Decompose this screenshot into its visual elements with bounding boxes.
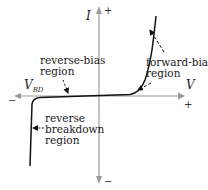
y-axis-negative-sign: − — [104, 176, 112, 187]
x-axis-label: V — [186, 80, 195, 91]
x-axis-negative-sign: − — [8, 95, 16, 106]
reverse-breakdown-label-line3: region — [45, 135, 79, 146]
forward-bias-arrow-lower — [138, 83, 151, 90]
y-axis-positive-sign: + — [104, 5, 112, 16]
reverse-bias-arrow — [63, 80, 68, 93]
y-axis-top-arrowhead — [96, 6, 102, 14]
diode-iv-diagram: I + − V + − VBD reverse-bias region forw… — [0, 0, 208, 190]
vbd-subscript: BD — [33, 86, 44, 94]
breakdown-voltage-label: VBD — [24, 80, 43, 96]
y-axis-label: I — [86, 11, 91, 22]
forward-bias-label-line2: region — [146, 68, 180, 79]
vbd-main: V — [24, 78, 33, 92]
x-axis-positive-sign: + — [184, 99, 192, 110]
reverse-bias-label-line2: region — [40, 66, 74, 77]
y-axis-bottom-arrowhead — [96, 176, 102, 184]
